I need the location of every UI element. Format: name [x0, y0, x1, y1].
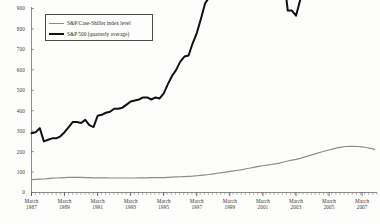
y-axis-tick-label: 400 [3, 108, 25, 114]
legend-item-sp500: S&P 500 (quarterly average) [49, 29, 149, 40]
x-axis-tick-label: March2003 [279, 198, 313, 211]
y-axis-tick-label: 0 [3, 189, 25, 195]
series-line-case-shiller [32, 146, 375, 179]
x-axis-tick-label: March2001 [246, 198, 280, 211]
y-axis-tick-label: 600 [3, 67, 25, 73]
y-axis-tick-label: 100 [3, 169, 25, 175]
x-axis-tick-label: March1993 [114, 198, 148, 211]
x-axis-tick-label: March1987 [15, 198, 49, 211]
x-axis-tick-label: March1991 [81, 198, 115, 211]
chart-container: 0100200300400500600700800900 March1987Ma… [0, 0, 380, 224]
legend-swatch-sp500-icon [49, 33, 64, 35]
chart-legend: S&P/Case-Shiller index level S&P 500 (qu… [45, 14, 153, 41]
y-axis-tick-label: 200 [3, 149, 25, 155]
y-axis-tick-label: 300 [3, 128, 25, 134]
y-axis-tick-label: 500 [3, 87, 25, 93]
y-axis-tick-label: 800 [3, 26, 25, 32]
y-axis-tick-label: 700 [3, 46, 25, 52]
x-axis-tick-label: March2005 [312, 198, 346, 211]
legend-label-sp500: S&P 500 (quarterly average) [67, 31, 129, 37]
x-axis-tick-label: March1997 [180, 198, 214, 211]
x-axis-tick-label: March1995 [147, 198, 181, 211]
x-axis-tick-label: March2007 [345, 198, 379, 211]
x-axis-tick-label: March1999 [213, 198, 247, 211]
legend-item-case-shiller: S&P/Case-Shiller index level [49, 18, 149, 29]
legend-swatch-case-shiller-icon [49, 23, 64, 24]
x-axis-tick-label: March1989 [48, 198, 82, 211]
legend-label-case-shiller: S&P/Case-Shiller index level [67, 20, 131, 26]
y-axis-tick-label: 900 [3, 5, 25, 11]
